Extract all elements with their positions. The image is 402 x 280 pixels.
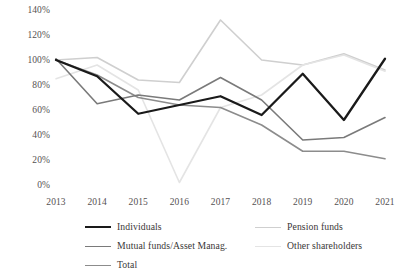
legend-label: Individuals [117, 221, 162, 233]
legend-swatch-icon [85, 226, 111, 228]
x-axis: 201320142015201620172018201920202021 [0, 196, 402, 214]
x-axis-tick-label: 2019 [283, 196, 323, 208]
legend-swatch-icon [255, 227, 281, 228]
x-axis-tick-label: 2017 [201, 196, 241, 208]
legend-swatch-icon [85, 265, 111, 266]
line-chart: 0%20%40%60%80%100%120%140% 2013201420152… [0, 0, 402, 280]
series-group [56, 20, 385, 183]
legend-item[interactable]: Total [85, 258, 137, 272]
legend-swatch-icon [255, 246, 281, 247]
legend-label: Other shareholders [287, 240, 362, 252]
x-axis-tick-label: 2018 [242, 196, 282, 208]
x-axis-tick-label: 2021 [365, 196, 402, 208]
chart-legend: IndividualsPension fundsMutual funds/Ass… [0, 219, 402, 280]
series-line [56, 20, 385, 83]
legend-item[interactable]: Pension funds [255, 220, 343, 234]
series-line [56, 55, 385, 183]
legend-label: Pension funds [287, 221, 343, 233]
legend-label: Total [117, 259, 137, 271]
series-line [56, 59, 385, 140]
x-axis-tick-label: 2020 [324, 196, 364, 208]
x-axis-tick-label: 2016 [159, 196, 199, 208]
x-axis-tick-label: 2015 [118, 196, 158, 208]
series-line [56, 59, 385, 120]
legend-item[interactable]: Other shareholders [255, 239, 362, 253]
legend-swatch-icon [85, 246, 111, 247]
x-axis-tick-label: 2014 [77, 196, 117, 208]
legend-item[interactable]: Individuals [85, 220, 162, 234]
legend-item[interactable]: Mutual funds/Asset Manag. [85, 239, 227, 253]
plot-area [0, 0, 402, 220]
x-axis-tick-label: 2013 [36, 196, 76, 208]
legend-label: Mutual funds/Asset Manag. [117, 240, 227, 252]
